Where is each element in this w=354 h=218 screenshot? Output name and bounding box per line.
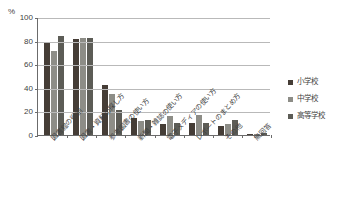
gridline xyxy=(38,42,270,43)
legend-swatch-icon xyxy=(288,97,293,102)
y-axis-tick xyxy=(35,112,38,113)
bar-group xyxy=(247,18,267,135)
legend-item[interactable]: 中学校 xyxy=(288,95,352,103)
bar-group xyxy=(44,18,64,135)
y-axis-tick xyxy=(35,89,38,90)
bar xyxy=(87,38,93,135)
legend-label: 中学校 xyxy=(297,95,318,103)
gridline xyxy=(38,65,270,66)
gridline xyxy=(38,18,270,19)
y-axis-tick-label: 100 xyxy=(20,14,33,22)
gridline xyxy=(38,89,270,90)
y-axis-tick-label: 40 xyxy=(24,85,33,93)
bar xyxy=(58,36,64,135)
y-axis-tick-label: 60 xyxy=(24,61,33,69)
bar xyxy=(51,51,57,135)
legend-swatch-icon xyxy=(288,80,293,85)
bar xyxy=(247,134,253,135)
legend-item[interactable]: 小学校 xyxy=(288,78,352,86)
bar xyxy=(80,38,86,135)
x-axis-labels: 図書館の役割図書・資料の探し方参考図書の使い方新聞・雑誌の使い方電子メディアの使… xyxy=(0,137,354,218)
bar xyxy=(189,123,195,135)
y-axis-unit-label: % xyxy=(8,8,15,16)
legend-label: 小学校 xyxy=(297,78,318,86)
legend-item[interactable]: 高等学校 xyxy=(288,112,352,120)
y-axis-tick xyxy=(35,65,38,66)
y-axis-tick xyxy=(35,42,38,43)
legend-swatch-icon xyxy=(288,114,293,119)
legend: 小学校中学校高等学校 xyxy=(288,78,352,129)
y-axis-tick xyxy=(35,18,38,19)
bar xyxy=(160,124,166,135)
legend-label: 高等学校 xyxy=(297,112,325,120)
y-axis-tick-label: 80 xyxy=(24,38,33,46)
bar xyxy=(218,126,224,135)
y-axis-tick-label: 20 xyxy=(24,108,33,116)
bar-chart: % 020406080100 図書館の役割図書・資料の探し方参考図書の使い方新聞… xyxy=(0,0,354,218)
